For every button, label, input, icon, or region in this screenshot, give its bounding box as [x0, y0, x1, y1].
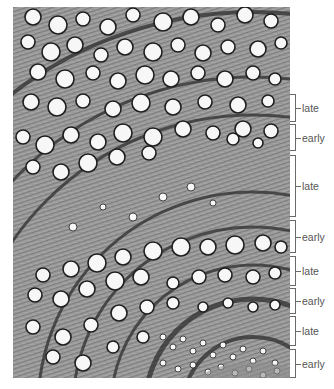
bracket-tick — [296, 331, 301, 332]
vessel-pore — [270, 300, 280, 310]
vessel-pore — [144, 242, 162, 260]
vessel-pore — [115, 249, 131, 265]
vessel-pore — [218, 268, 232, 282]
vessel-pore — [110, 73, 126, 89]
vessel-pore — [246, 66, 260, 80]
vessel-pore — [100, 204, 106, 210]
vessel-pore — [63, 127, 79, 143]
ring-bracket — [290, 316, 296, 346]
vessel-pore — [16, 130, 30, 144]
vessel-pore — [170, 344, 176, 350]
vessel-pore — [226, 236, 244, 254]
vessel-pore — [142, 146, 156, 160]
vessel-pore — [171, 38, 185, 52]
vessel-pore — [144, 43, 162, 61]
vessel-pore — [160, 334, 166, 340]
vessel-pore — [275, 37, 287, 49]
vessel-pore — [36, 136, 54, 154]
vessel-pore — [126, 8, 140, 22]
vessel-pore — [76, 12, 90, 26]
vessel-pore — [190, 348, 196, 354]
vessel-pore — [227, 133, 239, 145]
vessel-pore — [36, 268, 50, 282]
vessel-pore — [206, 126, 220, 140]
vessel-pore — [198, 302, 208, 312]
vessel-pore — [180, 336, 186, 342]
vessel-pore — [137, 331, 149, 343]
vessel-pore — [163, 71, 179, 87]
vessel-pore — [237, 7, 253, 23]
vessel-pore — [129, 213, 137, 221]
vessel-pore — [84, 318, 98, 332]
ring-label-early: early — [302, 295, 325, 307]
vessel-pore — [248, 302, 258, 312]
vessel-pore — [195, 45, 211, 61]
vessel-pore — [30, 64, 46, 80]
ring-bracket — [290, 288, 296, 314]
vessel-pore — [42, 43, 60, 61]
vessel-pore — [69, 223, 77, 231]
ring-bracket — [290, 94, 296, 122]
vessel-pore — [275, 241, 287, 253]
ring-label-early: early — [302, 132, 325, 144]
bracket-tick — [296, 237, 301, 238]
vessel-pore — [175, 366, 181, 372]
ring-label-late: late — [302, 265, 319, 277]
vessel-pore — [255, 235, 271, 251]
vessel-pore — [192, 270, 206, 284]
vessel-pore — [107, 341, 119, 353]
vessel-pore — [114, 124, 132, 142]
vessel-pore — [132, 94, 150, 112]
bracket-tick — [296, 364, 301, 365]
vessel-pore — [217, 71, 233, 87]
vessel-pore — [264, 124, 278, 138]
ring-label-late: late — [302, 102, 319, 114]
vessel-pore — [250, 41, 266, 57]
vessel-pore — [198, 95, 212, 109]
vessel-pore — [190, 362, 196, 368]
vessel-pore — [79, 281, 95, 297]
micrograph-graphic — [13, 7, 290, 378]
vessel-pore — [23, 94, 39, 110]
vessel-pore — [133, 269, 149, 285]
vessel-pore — [200, 340, 206, 346]
vessel-pore — [28, 288, 42, 302]
vessel-pore — [223, 298, 233, 308]
vessel-pore — [53, 164, 69, 180]
vessel-pore — [183, 9, 199, 25]
bracket-tick — [296, 138, 301, 139]
vessel-pore — [88, 254, 106, 272]
bracket-tick — [296, 108, 301, 109]
vessel-pore — [100, 19, 116, 35]
ring-bracket — [290, 220, 296, 253]
vessel-pore — [175, 121, 191, 137]
ring-bracket — [290, 349, 296, 378]
vessel-pore — [191, 66, 205, 80]
vessel-pore — [172, 238, 190, 256]
vessel-pore — [165, 99, 181, 115]
vessel-pore — [262, 95, 274, 107]
vessel-pore — [90, 134, 106, 150]
vessel-pore — [86, 66, 100, 80]
ring-label-early: early — [302, 358, 325, 370]
vessel-pore — [230, 354, 236, 360]
vessel-pore — [264, 14, 278, 28]
vessel-pore — [105, 101, 121, 117]
vessel-pore — [144, 128, 162, 146]
vessel-pore — [220, 342, 226, 348]
vessel-pore — [53, 291, 69, 307]
vessel-pore — [63, 261, 79, 277]
vessel-pore — [25, 9, 41, 25]
vessel-pore — [48, 98, 66, 116]
vessel-pore — [49, 16, 67, 34]
vessel-pore — [67, 37, 83, 53]
vessel-pore — [159, 193, 167, 201]
ring-bracket — [290, 155, 296, 217]
vessel-pore — [160, 360, 166, 366]
vessel-pore — [187, 183, 195, 191]
vessel-pore — [26, 160, 40, 174]
bracket-tick — [296, 186, 301, 187]
ring-bracket — [290, 256, 296, 286]
vessel-pore — [109, 149, 125, 165]
vessel-pore — [269, 73, 281, 85]
